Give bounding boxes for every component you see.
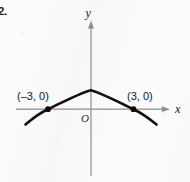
- origin-label: O: [81, 112, 89, 124]
- figure-container: 2. y x O (–3, 0) (3, 0): [0, 0, 190, 182]
- x-axis-arrowhead-icon: [162, 106, 170, 112]
- x-axis: [16, 106, 170, 112]
- y-axis: [88, 21, 94, 177]
- y-axis-arrowhead-icon: [88, 21, 94, 29]
- y-axis-label: y: [84, 6, 92, 20]
- right-intercept-label: (3, 0): [127, 90, 153, 102]
- left-intercept-point-marker: [45, 106, 51, 112]
- left-intercept-label: (–3, 0): [17, 90, 49, 102]
- coordinate-plane-graph: y x O (–3, 0) (3, 0): [0, 0, 190, 182]
- x-axis-label: x: [174, 102, 181, 116]
- right-intercept-point-marker: [131, 106, 137, 112]
